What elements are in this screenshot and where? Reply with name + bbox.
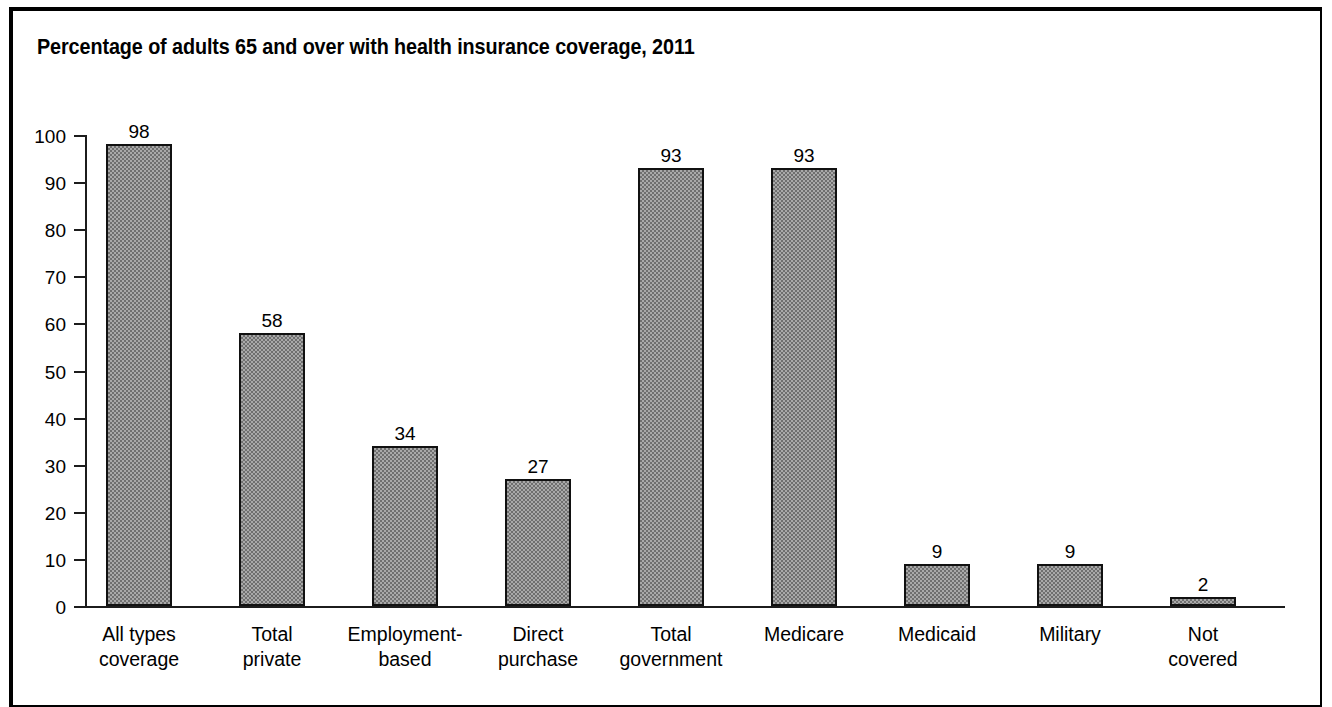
category-label: Military xyxy=(1004,622,1137,647)
bar-value-label: 93 xyxy=(793,146,814,165)
y-tick-label: 10 xyxy=(45,551,66,570)
y-tick-label: 70 xyxy=(45,268,66,287)
x-axis-line xyxy=(85,606,1285,608)
figure-frame: Percentage of adults 65 and over with he… xyxy=(9,7,1322,707)
y-tick-90: 90 xyxy=(74,182,85,184)
bar: 9 xyxy=(904,564,970,606)
y-tick-label: 80 xyxy=(45,221,66,240)
category-label: Not covered xyxy=(1137,622,1270,672)
y-tick-label: 0 xyxy=(55,598,66,617)
category-label: Total government xyxy=(605,622,738,672)
chart-title: Percentage of adults 65 and over with he… xyxy=(37,35,695,60)
category-label: Direct purchase xyxy=(472,622,605,672)
y-tick-label: 90 xyxy=(45,174,66,193)
y-tick-label: 60 xyxy=(45,316,66,335)
category-label: Medicare xyxy=(738,622,871,647)
bar: 27 xyxy=(505,479,571,606)
category-label: All types coverage xyxy=(73,622,206,672)
y-tick-80: 80 xyxy=(74,229,85,231)
bar-value-label: 9 xyxy=(1065,542,1076,561)
y-tick-label: 20 xyxy=(45,504,66,523)
y-tick-70: 70 xyxy=(74,276,85,278)
y-tick-60: 60 xyxy=(74,323,85,325)
y-tick-10: 10 xyxy=(74,559,85,561)
bar-value-label: 9 xyxy=(932,542,943,561)
bar: 58 xyxy=(239,333,305,606)
y-tick-0: 0 xyxy=(74,606,85,608)
category-label: Medicaid xyxy=(871,622,1004,647)
category-label: Total private xyxy=(206,622,339,672)
bar: 9 xyxy=(1037,564,1103,606)
bar-value-label: 58 xyxy=(261,311,282,330)
bar-value-label: 27 xyxy=(527,457,548,476)
y-tick-30: 30 xyxy=(74,465,85,467)
y-tick-label: 30 xyxy=(45,457,66,476)
y-tick-label: 40 xyxy=(45,410,66,429)
bar: 93 xyxy=(771,168,837,606)
bar-value-label: 2 xyxy=(1198,575,1209,594)
bar-value-label: 34 xyxy=(394,424,415,443)
bar: 93 xyxy=(638,168,704,606)
plot-area: 0102030405060708090100 985834279393992 A… xyxy=(85,135,1313,606)
y-tick-label: 50 xyxy=(45,363,66,382)
y-tick-50: 50 xyxy=(74,371,85,373)
y-tick-20: 20 xyxy=(74,512,85,514)
y-tick-40: 40 xyxy=(74,418,85,420)
bar: 98 xyxy=(106,144,172,606)
y-tick-100: 100 xyxy=(74,135,85,137)
bar-value-label: 98 xyxy=(128,122,149,141)
bar: 2 xyxy=(1170,597,1236,606)
bar: 34 xyxy=(372,446,438,606)
y-axis-line xyxy=(85,135,87,606)
y-tick-label: 100 xyxy=(34,127,66,146)
category-label: Employment- based xyxy=(339,622,472,672)
bar-value-label: 93 xyxy=(660,146,681,165)
